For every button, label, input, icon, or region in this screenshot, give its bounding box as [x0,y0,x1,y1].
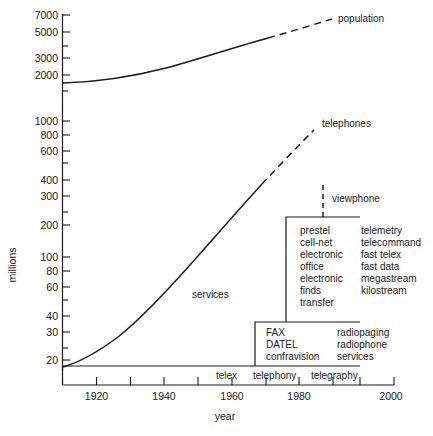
service-item: office [300,261,324,272]
y-axis-title: millions [6,247,18,282]
x-tick-label: 2000 [379,390,403,402]
current-service-item: services [337,351,374,362]
x-tick-label: 1960 [220,390,244,402]
y-ticks [63,15,71,360]
legacy-service-item: telephony [253,370,296,381]
x-tick-label: 1980 [287,390,311,402]
chart-svg: 7000 5000 3000 2000 1000 800 600 400 300… [0,0,433,436]
y-tick-label: 3000 [35,52,59,64]
population-label: population [338,13,384,24]
services-label: services [192,289,229,300]
current-service-item: FAX [266,327,285,338]
y-tick-label: 300 [40,190,58,202]
service-item: prestel [300,225,330,236]
legacy-service-item: telex [216,370,237,381]
x-tick-label: 1920 [85,390,109,402]
y-tick-label: 20 [46,354,58,366]
service-item: fast telex [361,249,401,260]
x-tick-label: 1940 [152,390,176,402]
telephones-curve-dashed [262,130,314,184]
y-tick-label: 100 [40,251,58,263]
telephones-label: telephones [322,118,371,129]
population-curve-dashed [268,19,332,38]
chart-root: 7000 5000 3000 2000 1000 800 600 400 300… [0,0,433,436]
service-item: transfer [300,297,335,308]
current-service-item: radiophone [337,339,387,350]
service-item: kilostream [361,285,407,296]
y-tick-label: 1000 [35,115,59,127]
y-tick-label: 80 [46,265,58,277]
service-item: telecommand [361,237,421,248]
viewphone-label: viewphone [332,193,380,204]
y-tick-label: 800 [40,129,58,141]
service-item: finds [300,285,321,296]
legacy-service-item: telegraphy [311,370,358,381]
service-item: telemetry [361,225,402,236]
service-item: cell-net [300,237,332,248]
current-service-item: radiopaging [337,327,389,338]
y-tick-label: 7000 [35,9,59,21]
y-tick-label: 40 [46,310,58,322]
service-item: fast data [361,261,400,272]
service-item: electronic [300,249,343,260]
current-service-item: DATEL [266,339,298,350]
population-curve-solid [63,38,268,83]
y-tick-label: 600 [40,145,58,157]
y-tick-label: 5000 [35,26,59,38]
y-tick-label: 60 [46,281,58,293]
y-tick-label: 30 [46,326,58,338]
service-item: electronic [300,273,343,284]
service-item: megastream [361,273,417,284]
y-tick-label: 2000 [35,69,59,81]
x-axis-title: year [215,410,236,422]
y-tick-label: 400 [40,174,58,186]
telephones-curve-solid [63,184,262,367]
y-tick-label: 200 [40,219,58,231]
current-service-item: confravision [266,351,319,362]
